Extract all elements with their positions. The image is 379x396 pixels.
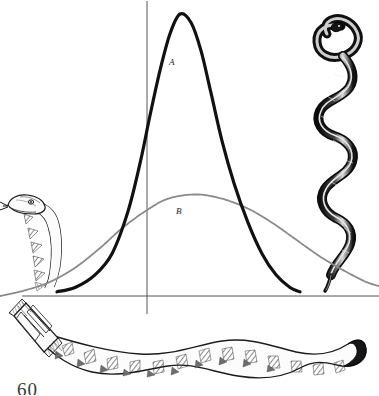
curve-b-label: B (176, 206, 182, 216)
chart-layer (0, 0, 379, 396)
figure-page: A B 60 (0, 0, 379, 396)
page-number: 60 (17, 378, 38, 395)
distribution-curve-a (57, 14, 300, 292)
distribution-curve-b (0, 194, 379, 296)
curve-a-label: A (169, 57, 175, 67)
